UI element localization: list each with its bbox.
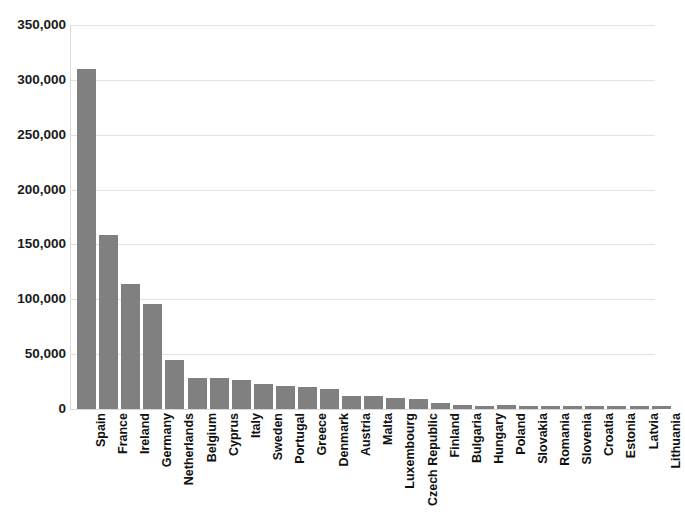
x-label-bulgaria: Bulgaria: [468, 413, 487, 463]
x-label-italy: Italy: [247, 413, 266, 438]
y-axis-tick-label: 100,000: [2, 293, 66, 307]
x-label-netherlands: Netherlands: [180, 413, 199, 485]
x-label-poland: Poland: [512, 413, 531, 455]
y-axis-tick-label: 200,000: [2, 183, 66, 197]
y-axis-tick-label: 150,000: [2, 238, 66, 252]
x-label-cyprus: Cyprus: [225, 413, 244, 456]
x-label-czech-republic: Czech Republic: [424, 413, 443, 506]
x-label-sweden: Sweden: [269, 413, 288, 460]
x-label-portugal: Portugal: [291, 413, 310, 464]
x-label-hungary: Hungary: [490, 413, 509, 464]
x-axis-category-labels: SpainFranceIrelandGermanyNetherlandsBelg…: [70, 0, 667, 518]
x-label-malta: Malta: [379, 413, 398, 445]
x-label-estonia: Estonia: [622, 413, 641, 458]
x-label-finland: Finland: [446, 413, 465, 457]
x-label-france: France: [114, 413, 133, 454]
x-label-romania: Romania: [556, 413, 575, 466]
x-label-spain: Spain: [92, 413, 111, 447]
x-label-ireland: Ireland: [136, 413, 155, 454]
y-axis-tick-label: 300,000: [2, 73, 66, 87]
y-axis-tick-label: 0: [2, 402, 66, 416]
x-label-lithuania: Lithuania: [667, 413, 685, 469]
x-label-denmark: Denmark: [335, 413, 354, 467]
x-label-slovenia: Slovenia: [578, 413, 597, 464]
x-label-belgium: Belgium: [203, 413, 222, 462]
x-label-latvia: Latvia: [645, 413, 664, 449]
y-axis-tick-label: 50,000: [2, 347, 66, 361]
x-label-croatia: Croatia: [600, 413, 619, 456]
y-axis-tick-label: 350,000: [2, 18, 66, 32]
x-label-luxembourg: Luxembourg: [401, 413, 420, 489]
y-axis-tick-label: 250,000: [2, 128, 66, 142]
y-axis-tick-labels: 350,000300,000250,000200,000150,000100,0…: [0, 0, 66, 518]
x-label-slovakia: Slovakia: [534, 413, 553, 464]
x-label-germany: Germany: [158, 413, 177, 467]
x-label-austria: Austria: [357, 413, 376, 456]
x-label-greece: Greece: [313, 413, 332, 455]
